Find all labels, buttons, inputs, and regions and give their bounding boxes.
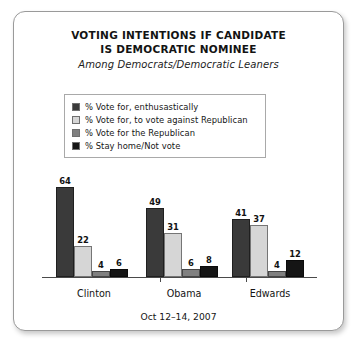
axis-tick bbox=[246, 278, 247, 282]
chart-caption: Oct 12–14, 2007 bbox=[14, 311, 343, 322]
chart-card: VOTING INTENTIONS IF CANDIDATE IS DEMOCR… bbox=[13, 11, 344, 331]
bar-value-label: 41 bbox=[235, 208, 247, 218]
bar-group: 642246 bbox=[56, 176, 128, 278]
bar-slot[interactable]: 64 bbox=[56, 176, 74, 278]
legend-item-label: % Vote for, enthusastically bbox=[85, 102, 198, 112]
legend-item-label: % Vote for the Republican bbox=[85, 128, 195, 138]
legend-swatch-icon bbox=[72, 129, 80, 137]
chart-subtitle: Among Democrats/Democratic Leaners bbox=[14, 59, 343, 70]
legend-item[interactable]: % Vote for, to vote against Republican bbox=[72, 113, 258, 126]
legend-item-label: % Vote for, to vote against Republican bbox=[85, 115, 248, 125]
chart-title-line-2: IS DEMOCRATIC NOMINEE bbox=[14, 43, 343, 57]
legend-swatch-icon bbox=[72, 103, 80, 111]
chart-legend: % Vote for, enthusastically% Vote for, t… bbox=[64, 94, 266, 158]
bar[interactable] bbox=[232, 219, 250, 277]
bar[interactable] bbox=[182, 269, 200, 277]
bar-slot[interactable]: 37 bbox=[250, 214, 268, 277]
bar-value-label: 49 bbox=[149, 197, 161, 207]
bar-group: 4137412 bbox=[232, 208, 304, 277]
x-axis-category-label: Edwards bbox=[232, 288, 308, 299]
bar[interactable] bbox=[74, 246, 92, 277]
legend-item[interactable]: % Stay home/Not vote bbox=[72, 139, 258, 152]
bar-slot[interactable]: 6 bbox=[182, 258, 200, 277]
bar-value-label: 31 bbox=[167, 222, 179, 232]
bar-slot[interactable]: 6 bbox=[110, 258, 128, 277]
bar[interactable] bbox=[200, 266, 218, 277]
bar[interactable] bbox=[56, 187, 74, 278]
bar-value-label: 12 bbox=[289, 249, 301, 259]
bar[interactable] bbox=[146, 208, 164, 277]
bar-value-label: 37 bbox=[253, 214, 265, 224]
plot-area: 6422464931684137412 bbox=[42, 164, 317, 277]
bar-slot[interactable]: 49 bbox=[146, 197, 164, 277]
bar[interactable] bbox=[110, 269, 128, 277]
legend-item[interactable]: % Vote for the Republican bbox=[72, 126, 258, 139]
legend-item[interactable]: % Vote for, enthusastically bbox=[72, 100, 258, 113]
bar-slot[interactable]: 4 bbox=[92, 260, 110, 277]
x-axis-category-label: Obama bbox=[146, 288, 222, 299]
bar-slot[interactable]: 31 bbox=[164, 222, 182, 277]
bar-value-label: 8 bbox=[206, 255, 212, 265]
bar-value-label: 6 bbox=[188, 258, 194, 268]
bar-value-label: 64 bbox=[59, 176, 71, 186]
bar[interactable] bbox=[286, 260, 304, 277]
bar-value-label: 4 bbox=[274, 260, 280, 270]
legend-swatch-icon bbox=[72, 142, 80, 150]
bar-slot[interactable]: 4 bbox=[268, 260, 286, 277]
bar-slot[interactable]: 41 bbox=[232, 208, 250, 277]
chart-title-line-1: VOTING INTENTIONS IF CANDIDATE bbox=[14, 29, 343, 43]
x-axis-baseline bbox=[42, 277, 317, 278]
x-axis-category-label: Clinton bbox=[56, 288, 132, 299]
axis-tick bbox=[160, 278, 161, 282]
bar-value-label: 4 bbox=[98, 260, 104, 270]
bar-slot[interactable]: 8 bbox=[200, 255, 218, 277]
bar-group: 493168 bbox=[146, 197, 218, 277]
title-block: VOTING INTENTIONS IF CANDIDATE IS DEMOCR… bbox=[14, 29, 343, 70]
bar-value-label: 6 bbox=[116, 258, 122, 268]
bar[interactable] bbox=[250, 225, 268, 277]
bar-value-label: 22 bbox=[77, 235, 89, 245]
bar[interactable] bbox=[164, 233, 182, 277]
legend-swatch-icon bbox=[72, 116, 80, 124]
bar-slot[interactable]: 12 bbox=[286, 249, 304, 277]
bar-slot[interactable]: 22 bbox=[74, 235, 92, 277]
legend-item-label: % Stay home/Not vote bbox=[85, 141, 180, 151]
